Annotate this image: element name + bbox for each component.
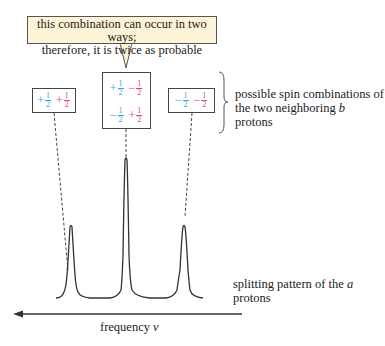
frequency-axis-label: frequency ν	[100, 320, 159, 334]
arrowhead-icon	[13, 311, 23, 318]
spin-box-left: +12 +12	[32, 88, 76, 113]
spin-box-right: −12 −12	[168, 88, 215, 113]
brace	[219, 72, 228, 133]
spectrum-trace	[56, 158, 203, 298]
connector-left	[54, 113, 68, 271]
splitting-pattern-label: splitting pattern of the a protons	[233, 277, 385, 305]
callout-line-2: therefore, it is twice as probable	[28, 44, 216, 57]
spin-box-center: +12 −12 −12 +12	[102, 72, 151, 129]
spin-combinations-label: possible spin combinations of the two ne…	[235, 87, 385, 129]
callout-line-1: this combination can occur in two ways;	[28, 18, 216, 44]
callout-box: this combination can occur in two ways; …	[27, 16, 217, 44]
connector-right	[185, 113, 192, 217]
